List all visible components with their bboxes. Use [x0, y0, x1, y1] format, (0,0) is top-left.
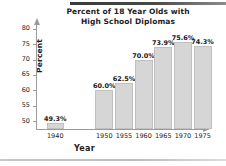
y-tick-70: 70 — [33, 60, 37, 61]
y-tick-label: 70 — [22, 55, 30, 63]
y-tick-80: 80 — [33, 29, 37, 30]
bar-1970: 75.6% — [174, 42, 192, 129]
x-tick-label-1975: 1975 — [194, 132, 211, 140]
y-tick-65: 65 — [33, 75, 37, 76]
bar-value-label: 62.5% — [113, 75, 136, 83]
y-axis-arrow-icon — [34, 18, 40, 25]
y-tick-50: 50 — [33, 121, 37, 122]
y-tick-label: 55 — [22, 101, 30, 109]
x-tick-label-1955: 1955 — [116, 132, 133, 140]
bar-value-label: 74.3% — [191, 38, 214, 46]
bottom-divider-rule — [0, 159, 226, 161]
y-tick-label: 80 — [22, 24, 30, 32]
bar-1965: 73.9% — [154, 47, 172, 129]
x-axis-title: Year — [74, 144, 95, 153]
x-tick-label-1940: 1940 — [47, 132, 64, 140]
bar-1950: 60.0% — [95, 90, 113, 129]
bar-value-label: 70.0% — [132, 52, 155, 60]
y-tick-75: 75 — [33, 44, 37, 45]
x-tick-label-1965: 1965 — [155, 132, 172, 140]
bar-1975: 74.3% — [194, 46, 212, 129]
chart-title-line-1: Percent of 18 Year Olds with — [58, 7, 198, 17]
x-axis-line — [36, 129, 204, 130]
y-tick-label: 65 — [22, 70, 30, 78]
bar-1940: 49.3% — [47, 123, 64, 129]
y-tick-55: 55 — [33, 106, 37, 107]
bar-value-label: 49.3% — [44, 115, 67, 123]
bar-value-label: 60.0% — [93, 82, 116, 90]
x-tick-label-1960: 1960 — [135, 132, 152, 140]
bar-1960: 70.0% — [135, 60, 153, 129]
x-tick-label-1950: 1950 — [96, 132, 113, 140]
y-tick-label: 60 — [22, 86, 30, 94]
x-tick-label-1970: 1970 — [175, 132, 192, 140]
y-axis-line — [36, 24, 37, 130]
bar-1955: 62.5% — [115, 83, 133, 129]
y-tick-label: 75 — [22, 40, 30, 48]
plot-area: Percent 50556065707580 49.3%60.0%62.5%70… — [36, 18, 211, 130]
y-tick-60: 60 — [33, 90, 37, 91]
top-divider-rule — [70, 2, 226, 5]
y-tick-label: 50 — [22, 117, 30, 125]
chart-figure: Percent of 18 Year Olds with High School… — [0, 0, 226, 166]
